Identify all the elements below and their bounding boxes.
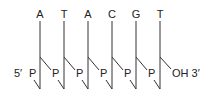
five-prime-label: 5′ bbox=[14, 67, 22, 79]
dna-strand-diagram: A T A C G T 5′ P P P P P P OH 3′ bbox=[0, 0, 210, 97]
phosphate-label: P bbox=[100, 67, 107, 79]
phosphate-label: P bbox=[76, 67, 83, 79]
base-label: T bbox=[157, 8, 164, 20]
phosphate-label: P bbox=[148, 67, 155, 79]
base-label: T bbox=[61, 8, 68, 20]
phosphate-label: P bbox=[124, 67, 131, 79]
base-label: C bbox=[108, 8, 116, 20]
three-prime-oh-label: OH 3′ bbox=[172, 67, 200, 79]
phosphate-label: P bbox=[29, 67, 36, 79]
base-label: A bbox=[36, 8, 44, 20]
base-label: A bbox=[84, 8, 92, 20]
phosphodiester-lower-bonds bbox=[34, 80, 160, 89]
phosphate-label: P bbox=[52, 67, 59, 79]
base-label: G bbox=[132, 8, 141, 20]
